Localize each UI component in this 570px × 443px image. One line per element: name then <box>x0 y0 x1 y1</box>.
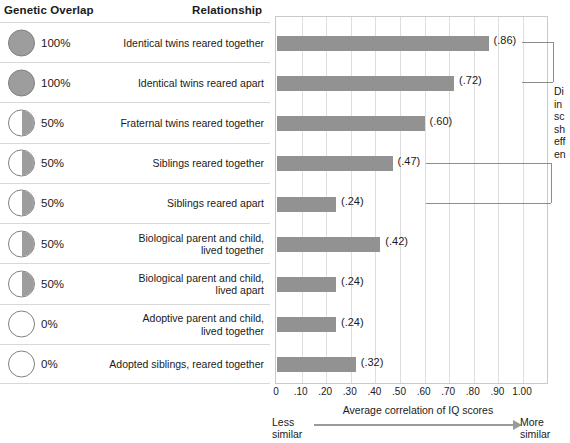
bar <box>277 197 336 212</box>
x-axis-tick-label: .40 <box>367 386 381 397</box>
genetic-overlap-percent: 100% <box>41 77 70 89</box>
table-row: 100%Identical twins reared together <box>0 22 270 62</box>
genetic-overlap-circle-icon <box>8 69 35 96</box>
gridline <box>523 17 524 383</box>
bar <box>277 76 454 91</box>
bracket-segment <box>426 163 551 164</box>
relationship-label: Siblings reared together <box>74 157 264 170</box>
header-genetic-overlap: Genetic Overlap <box>4 4 94 16</box>
bar <box>277 36 489 51</box>
bar-value-label: (.42) <box>385 235 408 247</box>
circle-full <box>8 69 35 96</box>
table-row: 50%Fraternal twins reared together <box>0 102 270 142</box>
bar-value-label: (.47) <box>398 155 421 167</box>
circle-half <box>8 270 35 297</box>
table-row: 50%Siblings reared apart <box>0 183 270 223</box>
circle-empty <box>8 311 35 338</box>
bar <box>277 357 356 372</box>
x-axis-tick-label: .30 <box>343 386 357 397</box>
genetic-overlap-circle-icon <box>8 110 35 137</box>
relationship-label: Siblings reared apart <box>74 197 264 210</box>
genetic-overlap-percent: 50% <box>41 197 64 209</box>
bracket-segment <box>522 82 553 83</box>
less-similar-label: Lesssimilar <box>272 416 302 440</box>
bar-value-label: (.72) <box>459 74 482 86</box>
circle-half <box>8 110 35 137</box>
side-annotation-text: Diinscsheffen <box>554 85 570 160</box>
genetic-overlap-percent: 100% <box>41 37 70 49</box>
genetic-overlap-circle-icon <box>8 350 35 377</box>
x-axis-tick-label: .50 <box>392 386 406 397</box>
table-row: 50%Siblings reared together <box>0 143 270 183</box>
iq-correlation-chart: Average correlation of IQ scores Lesssim… <box>270 0 566 443</box>
genetic-overlap-percent: 50% <box>41 278 64 290</box>
genetic-overlap-percent: 0% <box>41 318 58 330</box>
bracket-segment <box>522 42 553 43</box>
gridline <box>498 17 499 383</box>
bar <box>277 237 380 252</box>
table-row: 50%Biological parent and child,lived apa… <box>0 263 270 303</box>
x-axis-tick-label: .60 <box>417 386 431 397</box>
x-axis-tick-label: 1.00 <box>512 386 531 397</box>
bracket-segment <box>553 42 554 82</box>
genetic-overlap-circle-icon <box>8 230 35 257</box>
x-axis-title: Average correlation of IQ scores <box>270 404 566 416</box>
x-axis-tick-label: .70 <box>441 386 455 397</box>
relationship-label: Fraternal twins reared together <box>74 117 264 130</box>
table-row: 0%Adoptive parent and child,lived togeth… <box>0 304 270 344</box>
bar-value-label: (.24) <box>341 275 364 287</box>
bar <box>277 277 336 292</box>
genetic-overlap-circle-icon <box>8 150 35 177</box>
bar <box>277 317 336 332</box>
relationship-label: Identical twins reared apart <box>74 77 264 90</box>
genetic-overlap-percent: 50% <box>41 238 64 250</box>
circle-full <box>8 29 35 56</box>
more-similar-label: Moresimilar <box>520 416 550 440</box>
circle-empty <box>8 350 35 377</box>
bracket-segment <box>426 203 551 204</box>
bar-value-label: (.24) <box>341 195 364 207</box>
similarity-arrow-icon <box>314 424 514 426</box>
relationship-label: Identical twins reared together <box>74 36 264 49</box>
bar-value-label: (.60) <box>430 115 453 127</box>
bar-value-label: (.24) <box>341 316 364 328</box>
relationship-label: Adoptive parent and child,lived together <box>74 312 264 337</box>
relationship-label: Adopted siblings, reared together <box>74 358 264 371</box>
plot-area <box>275 16 548 384</box>
genetic-overlap-percent: 50% <box>41 157 64 169</box>
bar <box>277 156 393 171</box>
genetic-overlap-percent: 50% <box>41 117 64 129</box>
circle-half <box>8 230 35 257</box>
gridline <box>474 17 475 383</box>
table-row: 0%Adopted siblings, reared together <box>0 344 270 384</box>
circle-half <box>8 150 35 177</box>
circle-half <box>8 190 35 217</box>
bar-value-label: (.86) <box>494 34 517 46</box>
genetic-overlap-circle-icon <box>8 311 35 338</box>
table-row: 100%Identical twins reared apart <box>0 62 270 102</box>
gridline <box>375 17 376 383</box>
genetic-overlap-circle-icon <box>8 270 35 297</box>
genetic-overlap-percent: 0% <box>41 358 58 370</box>
x-axis-tick-label: .80 <box>466 386 480 397</box>
bar-value-label: (.32) <box>361 356 384 368</box>
header-relationship: Relationship <box>192 4 262 16</box>
relationship-table: 100%Identical twins reared together100%I… <box>0 22 270 384</box>
x-axis-tick-label: .90 <box>490 386 504 397</box>
relationship-label: Biological parent and child,lived togeth… <box>74 231 264 256</box>
x-axis-tick-label: .20 <box>318 386 332 397</box>
gridline <box>449 17 450 383</box>
bar <box>277 116 425 131</box>
x-axis-tick-label: 0 <box>273 386 279 397</box>
x-axis-tick-label: .10 <box>294 386 308 397</box>
gridline <box>425 17 426 383</box>
table-row: 50%Biological parent and child,lived tog… <box>0 223 270 263</box>
relationship-label: Biological parent and child,lived apart <box>74 271 264 296</box>
genetic-overlap-circle-icon <box>8 29 35 56</box>
bracket-segment <box>551 163 552 203</box>
genetic-overlap-circle-icon <box>8 190 35 217</box>
gridline <box>400 17 401 383</box>
